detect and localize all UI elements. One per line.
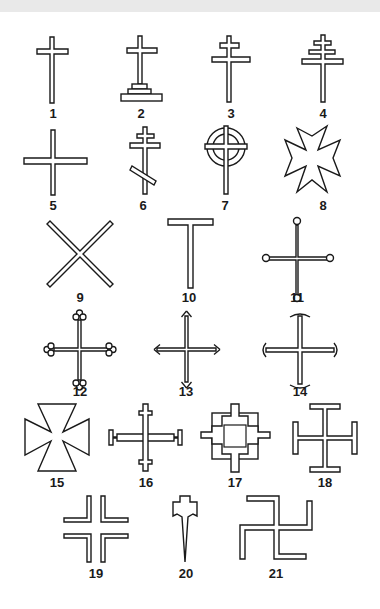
figure-label: 7	[221, 199, 228, 212]
figure-label: 15	[50, 476, 64, 489]
figure-label: 21	[269, 567, 283, 580]
formee-cross-icon	[25, 404, 89, 471]
figure-label: 18	[318, 476, 332, 489]
celtic-cross-icon	[205, 126, 247, 194]
botonnee-cross-icon	[44, 310, 116, 390]
greek-cross-icon	[24, 130, 87, 195]
figure-label: 13	[179, 385, 193, 398]
saint-andrews-cross-icon	[47, 221, 113, 287]
figure-label: 12	[73, 385, 87, 398]
figure-label: 5	[49, 199, 56, 212]
latin-cross-icon	[37, 37, 68, 103]
figure-label: 3	[227, 107, 234, 120]
figure-label: 2	[137, 107, 144, 120]
figure-label: 14	[293, 385, 307, 398]
calvary-cross-icon	[121, 36, 162, 101]
fitchee-cross-icon	[173, 496, 197, 562]
figure-label: 8	[319, 199, 326, 212]
figure-label: 10	[182, 291, 196, 304]
tau-cross-icon	[168, 219, 213, 288]
figure-label: 17	[228, 476, 242, 489]
figure-label: 6	[139, 199, 146, 212]
russian-orthodox-cross-icon	[130, 127, 160, 194]
stepped-cross-icon	[201, 404, 270, 472]
moline-cross-icon	[263, 314, 337, 388]
potent-cross-icon	[293, 404, 357, 472]
figure-label: 11	[290, 291, 304, 304]
patriarchal-cross-icon	[212, 36, 250, 102]
swastika-icon	[240, 496, 312, 559]
figure-label: 4	[319, 107, 326, 120]
maltese-cross-icon	[285, 126, 340, 192]
figure-label: 1	[49, 107, 56, 120]
pommee-cross-icon	[263, 218, 334, 302]
voided-cross-icon	[64, 496, 128, 562]
figure-label: 19	[89, 567, 103, 580]
papal-cross-icon	[302, 35, 343, 102]
crosslet-cross-icon	[109, 404, 182, 471]
figure-label: 9	[76, 291, 83, 304]
figure-label: 16	[139, 476, 153, 489]
figure-label: 20	[179, 567, 193, 580]
fleury-cross-icon	[154, 311, 220, 388]
